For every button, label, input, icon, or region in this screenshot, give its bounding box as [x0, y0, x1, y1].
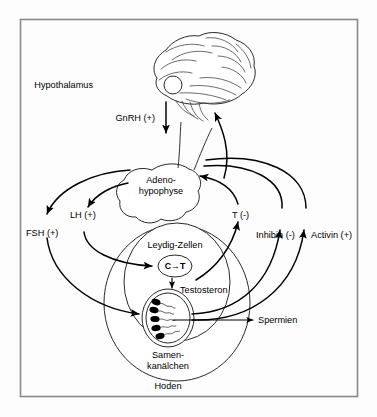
- hypothalamus-node: [164, 76, 182, 94]
- arrow-t-feedback-pituitary: [200, 176, 238, 204]
- arrow-inhibin-upper: [204, 165, 282, 208]
- label-adenohypophyse-line2: hypophyse: [139, 186, 183, 196]
- figure-container: Hypothalamus GnRH (+) Adeno- hypophyse F…: [0, 0, 377, 417]
- label-samenkanaelchen-line2: kanälchen: [147, 361, 189, 371]
- label-t-negative: T (-): [232, 210, 249, 220]
- label-adenohypophyse-line1: Adeno-: [146, 175, 176, 185]
- label-inhibin: Inhibin (-): [256, 230, 295, 240]
- label-samenkanaelchen-line1: Samen-: [152, 350, 184, 360]
- label-leydig-zellen: Leydig-Zellen: [147, 240, 202, 250]
- brain-illustration: [154, 33, 255, 121]
- label-lh: LH (+): [70, 210, 96, 220]
- label-fsh: FSH (+): [26, 228, 58, 238]
- label-testosteron: Testosteron: [180, 285, 228, 295]
- label-activin: Activin (+): [311, 230, 352, 240]
- label-hoden: Hoden: [154, 381, 181, 391]
- label-gnrh: GnRH (+): [115, 113, 155, 123]
- pituitary-illustration: [117, 122, 212, 223]
- hpg-axis-diagram: Hypothalamus GnRH (+) Adeno- hypophyse F…: [0, 0, 377, 417]
- arrow-t-feedback-brain: [215, 113, 227, 178]
- label-spermien: Spermien: [258, 315, 297, 325]
- label-conversion: C→T: [165, 261, 186, 271]
- label-hypothalamus: Hypothalamus: [34, 80, 93, 90]
